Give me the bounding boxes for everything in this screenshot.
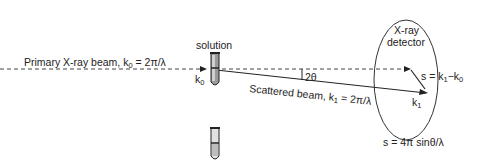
primary-beam-arrowhead [200,66,207,72]
s-vector-label: s = k1−k0 [421,70,463,82]
solvent-tube-icon [210,127,220,159]
k0-arrowhead [404,66,411,72]
primary-beam-label: Primary X-ray beam, k0 = 2π/λ [24,56,166,68]
detector-label-line2: detector [387,36,425,48]
angle-label: 2θ [305,71,317,83]
s-vector-mid: −k [448,70,459,82]
primary-beam-suffix: = 2π/λ [133,56,166,68]
solution-tube-icon [210,52,220,85]
primary-beam-text: Primary X-ray beam, k [24,56,128,68]
s-vector-text: s = k [421,70,443,82]
k0-sub: 0 [200,78,204,87]
k0-label: k0 [195,73,204,85]
k1-label: k1 [412,96,421,108]
solution-label: solution [196,39,232,51]
s-vector-sub2: 0 [459,75,463,84]
detector-label-line1: X-ray [394,24,419,36]
scattered-beam-arrowhead [419,89,428,95]
k1-sub: 1 [417,101,421,110]
s-formula-label: s = 4π sinθ/λ [383,136,444,148]
